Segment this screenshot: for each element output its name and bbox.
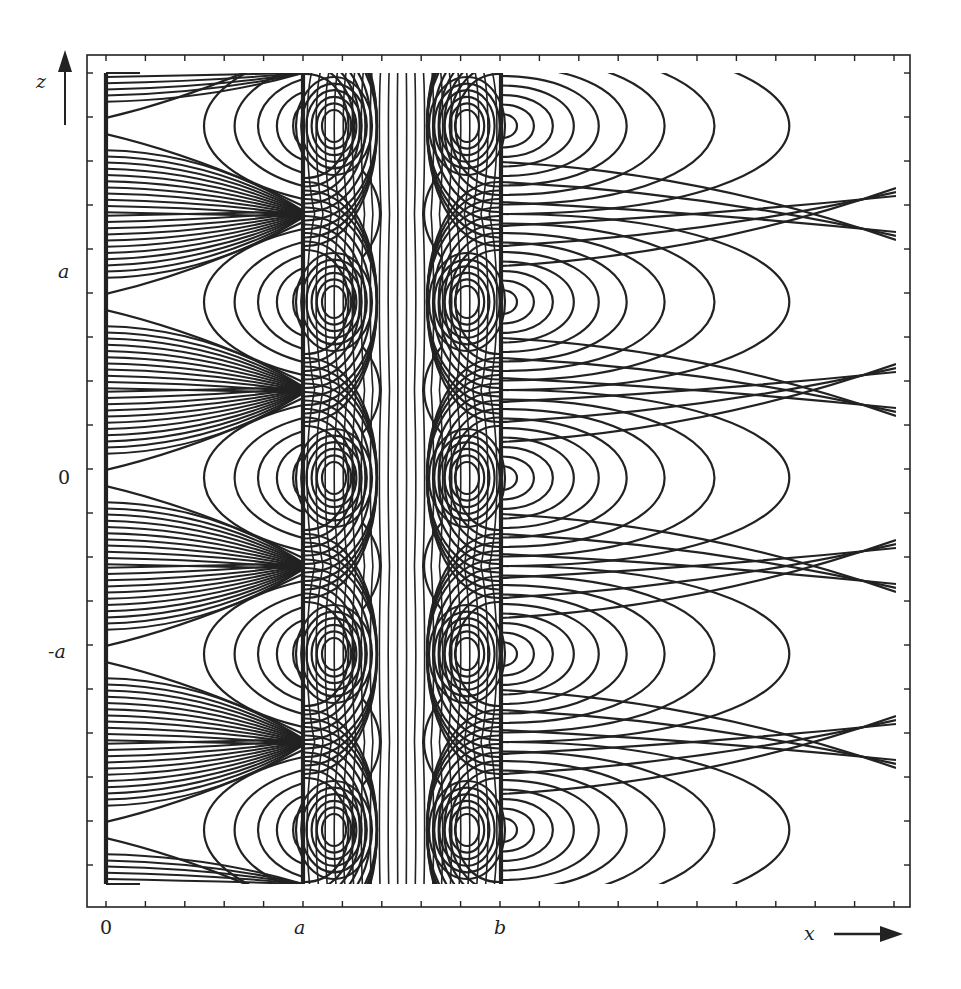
x-tick-label-0: 0 xyxy=(100,916,112,938)
z-tick-label-a: a xyxy=(58,260,69,282)
streamline-diagram xyxy=(0,0,961,989)
x-tick-label-a: a xyxy=(294,916,305,938)
z-tick-label-minus-a: -a xyxy=(48,640,66,662)
x-tick-label-b: b xyxy=(494,916,506,938)
x-axis-label: x xyxy=(804,922,815,944)
z-axis-label: z xyxy=(36,70,46,92)
z-tick-label-0: 0 xyxy=(58,466,70,488)
